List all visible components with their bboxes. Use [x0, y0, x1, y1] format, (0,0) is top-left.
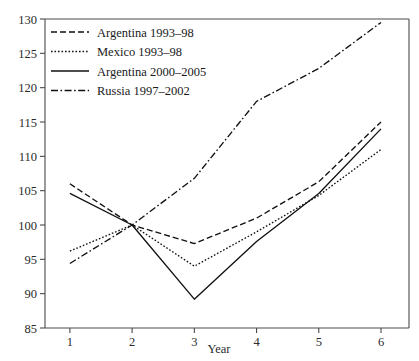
y-tick-label: 85 [25, 322, 38, 336]
y-tick-label: 130 [18, 13, 37, 27]
x-tick-label: 3 [191, 335, 197, 349]
line-chart: 859095100105110115120125130 123456 Argen… [0, 0, 419, 361]
legend-label-2: Argentina 2000–2005 [97, 65, 206, 79]
y-tick-label: 100 [18, 219, 37, 233]
legend: Argentina 1993–98Mexico 1993–98Argentina… [51, 26, 206, 99]
y-tick-label: 90 [25, 287, 38, 301]
y-axis: 859095100105110115120125130 [18, 13, 45, 336]
x-tick-label: 6 [378, 335, 384, 349]
legend-label-0: Argentina 1993–98 [97, 26, 194, 40]
x-axis-title: Year [207, 342, 231, 356]
chart-canvas: 859095100105110115120125130 123456 Argen… [0, 0, 419, 361]
y-tick-label: 110 [19, 150, 37, 164]
y-tick-label: 95 [25, 253, 38, 267]
x-tick-label: 4 [253, 335, 260, 349]
x-tick-label: 5 [316, 335, 322, 349]
y-tick-label: 120 [18, 81, 37, 95]
x-tick-label: 2 [129, 335, 135, 349]
legend-label-1: Mexico 1993–98 [97, 45, 182, 59]
x-tick-label: 1 [67, 335, 73, 349]
y-tick-label: 115 [19, 116, 37, 130]
legend-label-3: Russia 1997–2002 [97, 84, 190, 98]
y-tick-label: 105 [18, 184, 37, 198]
y-tick-label: 125 [18, 47, 37, 61]
